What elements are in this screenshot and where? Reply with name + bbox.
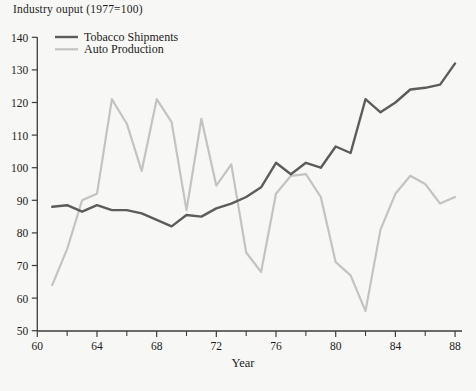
x-tick-label: 88 [449,340,461,352]
y-tick-label: 100 [11,162,29,174]
x-tick-label: 84 [390,340,402,352]
x-axis-title: Year [231,356,255,370]
y-tick-label: 140 [11,32,29,44]
auto-production-line [52,99,455,311]
industry-output-chart: Industry ouput (1977=100) 50607080901001… [0,0,476,391]
y-tick-label: 110 [11,130,28,142]
x-tick-label: 80 [330,340,342,352]
x-tick-label: 72 [211,340,223,352]
x-tick-label: 60 [32,340,44,352]
y-tick-label: 70 [17,260,29,272]
y-tick-label: 80 [17,227,29,239]
y-tick-label: 120 [11,97,29,109]
x-tick-label: 76 [270,340,282,352]
x-tick-label: 64 [91,340,103,352]
y-tick-label: 60 [17,293,29,305]
y-tick-label: 130 [11,64,29,76]
legend-label-auto-production: Auto Production [84,42,164,56]
line-chart-canvas: 5060708090100110120130140606468727680848… [0,0,476,391]
y-tick-label: 50 [17,325,29,337]
x-tick-label: 68 [151,340,163,352]
tobacco-shipments-line [52,63,455,226]
y-tick-label: 90 [17,195,29,207]
